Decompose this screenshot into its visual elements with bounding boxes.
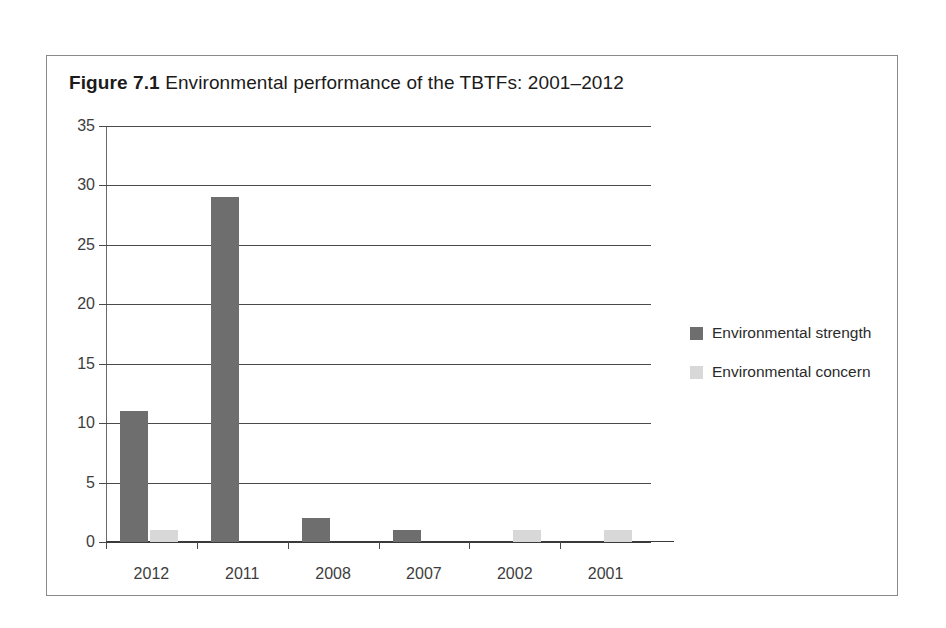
figure-title: Environmental performance of the TBTFs: … — [165, 72, 624, 93]
gridline — [106, 304, 651, 305]
legend-swatch-icon — [690, 366, 703, 379]
y-axis-label: 15 — [77, 355, 95, 373]
y-axis-label: 5 — [86, 474, 95, 492]
legend-label: Environmental concern — [712, 363, 871, 381]
y-tick-mark — [99, 126, 106, 127]
y-axis-label: 20 — [77, 295, 95, 313]
x-tick-mark — [197, 542, 198, 549]
x-axis-label: 2012 — [134, 565, 170, 583]
figure-number: Figure 7.1 — [69, 72, 160, 93]
gridline — [106, 364, 651, 365]
bar — [211, 197, 239, 542]
y-tick-mark — [99, 423, 106, 424]
x-tick-mark — [469, 542, 470, 549]
y-tick-mark — [99, 304, 106, 305]
y-tick-mark — [99, 245, 106, 246]
y-axis-label: 0 — [86, 533, 95, 551]
y-axis-label: 35 — [77, 117, 95, 135]
x-tick-mark — [560, 542, 561, 549]
legend-item: Environmental strength — [690, 324, 871, 342]
figure-caption: Figure 7.1 Environmental performance of … — [69, 72, 624, 94]
y-axis-label: 25 — [77, 236, 95, 254]
gridline — [106, 126, 651, 127]
gridline — [106, 483, 651, 484]
legend-item: Environmental concern — [690, 363, 871, 381]
x-axis-label: 2002 — [497, 565, 533, 583]
x-axis-label: 2007 — [406, 565, 442, 583]
chart-plot-area: 05101520253035 201220112008200720022001 — [106, 126, 651, 542]
legend-swatch-icon — [690, 327, 703, 340]
y-tick-mark — [99, 364, 106, 365]
x-axis-label: 2011 — [225, 565, 259, 583]
x-tick-mark — [106, 542, 107, 549]
bar — [120, 411, 148, 542]
y-axis-line — [106, 126, 107, 542]
legend-label: Environmental strength — [712, 324, 871, 342]
y-axis-label: 10 — [77, 414, 95, 432]
y-tick-mark — [99, 483, 106, 484]
bar — [302, 518, 330, 542]
x-tick-mark — [379, 542, 380, 549]
y-tick-mark — [99, 542, 106, 543]
gridline — [106, 245, 651, 246]
x-tick-mark — [288, 542, 289, 549]
y-tick-mark — [99, 185, 106, 186]
x-axis-label: 2001 — [588, 565, 624, 583]
bar — [604, 530, 632, 542]
chart-legend: Environmental strengthEnvironmental conc… — [690, 324, 871, 402]
gridline — [106, 185, 651, 186]
bar — [513, 530, 541, 542]
x-axis-label: 2008 — [315, 565, 351, 583]
gridline — [106, 423, 651, 424]
y-axis-label: 30 — [77, 176, 95, 194]
bar — [393, 530, 421, 542]
figure-frame: Figure 7.1 Environmental performance of … — [46, 55, 898, 596]
bar — [150, 530, 178, 542]
